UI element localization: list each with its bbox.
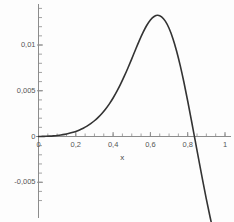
chart-canvas — [0, 0, 234, 222]
data-curve — [39, 15, 226, 222]
x-tick-label: 0,4 — [99, 140, 127, 149]
y-axis-minor-ticks — [39, 8, 43, 200]
x-tick-label: 0,6 — [136, 140, 164, 149]
chart-figure: -0,005 0 0,005 0,01 0 0,2 0,4 0,6 0,8 1 … — [0, 0, 234, 222]
x-tick-label: 0 — [25, 140, 53, 149]
y-tick-label: 0,005 — [17, 86, 36, 95]
x-tick-label: 0,8 — [174, 140, 202, 149]
x-tick-label: 1 — [211, 140, 234, 149]
x-tick-label: 0,2 — [62, 140, 90, 149]
y-tick-label: -0,005 — [14, 177, 35, 186]
y-tick-label: 0,01 — [21, 40, 36, 49]
x-axis-title: x — [120, 153, 124, 162]
y-axis-major-ticks — [37, 45, 43, 182]
